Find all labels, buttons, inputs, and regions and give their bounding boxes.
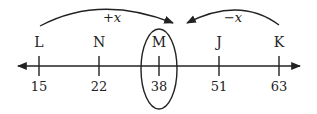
minus-x-label: −x (224, 10, 243, 25)
point-value-K: 63 (271, 79, 288, 94)
point-label-L: L (34, 34, 43, 50)
point-label-K: K (274, 34, 285, 50)
point-value-J: 51 (211, 79, 228, 94)
point-label-J: J (214, 34, 222, 50)
point-value-L: 15 (31, 79, 48, 94)
point-value-N: 22 (91, 79, 108, 94)
point-value-M: 38 (151, 79, 168, 94)
plus-x-label: +x (103, 10, 122, 25)
point-label-M: M (152, 34, 166, 50)
number-line-diagram: +x −x L N M J K 15 22 38 51 63 (0, 0, 317, 114)
point-label-N: N (93, 34, 105, 50)
